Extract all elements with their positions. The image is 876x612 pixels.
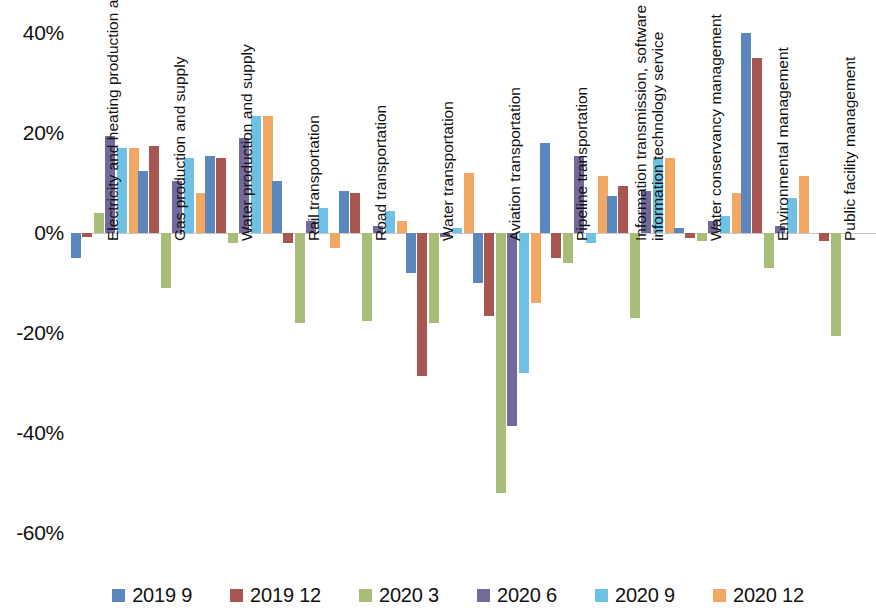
bar [417, 233, 427, 376]
legend-item[interactable]: 2020 3 [359, 584, 439, 607]
y-axis-tick-label: 20% [23, 121, 64, 145]
bar [507, 233, 517, 426]
y-axis: 40%20%0%-20%-40%-60% [0, 0, 72, 570]
bar [752, 58, 762, 233]
bar [819, 233, 829, 241]
bar [741, 33, 751, 233]
legend-item[interactable]: 2020 12 [713, 584, 804, 607]
bar-group: Aviation transportation [474, 0, 541, 570]
bar-group: Road transportation [340, 0, 407, 570]
legend-item[interactable]: 2020 9 [595, 584, 675, 607]
bar [540, 143, 550, 233]
bar [216, 158, 226, 233]
bar-group: Gas production and supply [139, 0, 206, 570]
bar [149, 146, 159, 234]
bar [764, 233, 774, 268]
legend-item[interactable]: 2020 6 [477, 584, 557, 607]
bar [71, 233, 81, 258]
bar [630, 233, 640, 318]
legend-swatch-icon [713, 589, 726, 602]
bar [697, 233, 707, 241]
legend-item[interactable]: 2019 12 [230, 584, 321, 607]
bar [607, 196, 617, 234]
bar [406, 233, 416, 273]
plot-area: Electricity and heating production and s… [72, 0, 876, 570]
category-label: Water production and supply [238, 44, 255, 241]
bar [429, 233, 439, 323]
bar [339, 191, 349, 234]
bar [295, 233, 305, 323]
bar [272, 181, 282, 234]
bar-group: Rail transportation [273, 0, 340, 570]
bar [362, 233, 372, 321]
bar-group: Public facility management [809, 0, 876, 570]
legend-swatch-icon [477, 589, 490, 602]
category-label: Gas production and supply [171, 57, 188, 241]
bar [205, 156, 215, 234]
bar-group: Electricity and heating production and s… [72, 0, 139, 570]
bar [464, 173, 474, 233]
bar [484, 233, 494, 316]
legend-item[interactable]: 2019 9 [112, 584, 192, 607]
bar [665, 158, 675, 233]
chart-legend: 2019 92019 122020 32020 62020 92020 12 [0, 578, 876, 612]
bar [161, 233, 171, 288]
bar-chart: 40%20%0%-20%-40%-60% Electricity and hea… [0, 0, 876, 612]
category-label: Road transportation [372, 105, 389, 241]
bar [82, 233, 92, 237]
bar [94, 213, 104, 233]
bar [138, 171, 148, 234]
y-axis-tick-label: -40% [16, 421, 64, 445]
category-label: Information transmission, software and i… [632, 0, 666, 241]
legend-swatch-icon [595, 589, 608, 602]
bar [496, 233, 506, 493]
category-label: Public facility management [841, 57, 858, 241]
category-label: Rail transportation [305, 115, 322, 241]
bar-group: Water transportation [407, 0, 474, 570]
legend-label: 2020 12 [733, 584, 804, 607]
bar [685, 233, 695, 238]
legend-swatch-icon [359, 589, 372, 602]
bar [473, 233, 483, 283]
bar [831, 233, 841, 336]
y-axis-tick-label: -20% [16, 321, 64, 345]
bar [228, 233, 238, 243]
y-axis-tick-label: 40% [23, 21, 64, 45]
category-label: Environmental management [774, 47, 791, 241]
bar-group: Environmental management [742, 0, 809, 570]
legend-label: 2020 3 [379, 584, 439, 607]
bar [330, 233, 340, 248]
category-label: Aviation transportation [506, 87, 523, 241]
legend-swatch-icon [112, 589, 125, 602]
bar [799, 176, 809, 234]
bar [563, 233, 573, 263]
bar-group: Pipeline transportation [541, 0, 608, 570]
bar [618, 186, 628, 234]
bar [397, 221, 407, 234]
y-axis-tick-label: 0% [34, 221, 64, 245]
bar [551, 233, 561, 258]
category-label: Water conservancy management [707, 14, 724, 241]
bar-group: Water production and supply [206, 0, 273, 570]
bar [674, 228, 684, 233]
bar [350, 193, 360, 233]
bar [519, 233, 529, 373]
legend-label: 2020 6 [497, 584, 557, 607]
bar [283, 233, 293, 243]
category-label: Water transportation [439, 101, 456, 241]
legend-label: 2019 12 [250, 584, 321, 607]
bar-group: Information transmission, software and i… [608, 0, 675, 570]
legend-swatch-icon [230, 589, 243, 602]
y-axis-tick-label: -60% [16, 521, 64, 545]
category-label: Electricity and heating production and s… [104, 0, 121, 241]
bar [531, 233, 541, 303]
legend-label: 2019 9 [132, 584, 192, 607]
bar-group: Water conservancy management [675, 0, 742, 570]
category-label: Pipeline transportation [573, 87, 590, 241]
legend-label: 2020 9 [615, 584, 675, 607]
